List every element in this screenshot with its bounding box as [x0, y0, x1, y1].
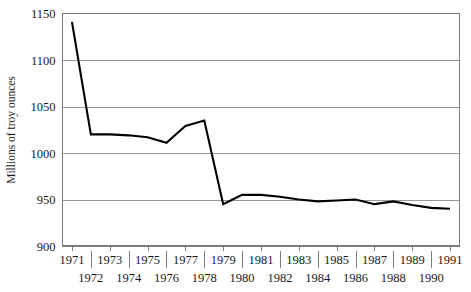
x-tick-label-even: 1980: [230, 271, 255, 285]
x-tick-label-even: 1982: [267, 271, 292, 285]
x-tick-label-odd: 1981: [249, 253, 274, 267]
y-axis-title: Millions of troy ounces: [5, 76, 18, 184]
x-tick-label-odd: 1989: [400, 253, 425, 267]
y-tick-label: 1000: [31, 147, 56, 161]
x-tick-label-even: 1984: [305, 271, 331, 285]
x-axis-tick-labels-odd-years: 1971197319751977197919811983198519871989…: [59, 253, 462, 267]
chart-background: [0, 0, 471, 292]
x-tick-label-odd: 1977: [173, 253, 198, 267]
x-tick-label-even: 1988: [381, 271, 406, 285]
x-tick-label-even: 1986: [343, 271, 368, 285]
line-chart: 9009501000105011001150 Millions of troy …: [0, 0, 471, 292]
x-tick-label-odd: 1979: [211, 253, 236, 267]
x-tick-label-odd: 1975: [135, 253, 160, 267]
chart-figure: 9009501000105011001150 Millions of troy …: [0, 0, 471, 292]
x-tick-label-even: 1978: [192, 271, 217, 285]
y-tick-label: 1050: [31, 100, 56, 114]
x-tick-label-odd: 1991: [438, 253, 463, 267]
x-tick-label-even: 1976: [154, 271, 179, 285]
x-tick-label-even: 1974: [116, 271, 142, 285]
x-tick-label-even: 1972: [78, 271, 103, 285]
x-tick-label-odd: 1985: [324, 253, 349, 267]
x-tick-label-even: 1990: [419, 271, 444, 285]
y-tick-label: 950: [37, 193, 56, 207]
y-tick-label: 900: [37, 240, 56, 254]
y-tick-label: 1100: [31, 54, 56, 68]
x-tick-label-odd: 1971: [59, 253, 84, 267]
y-tick-label: 1150: [31, 7, 56, 21]
x-tick-label-odd: 1983: [286, 253, 311, 267]
x-tick-label-odd: 1973: [97, 253, 122, 267]
x-tick-label-odd: 1987: [362, 253, 387, 267]
